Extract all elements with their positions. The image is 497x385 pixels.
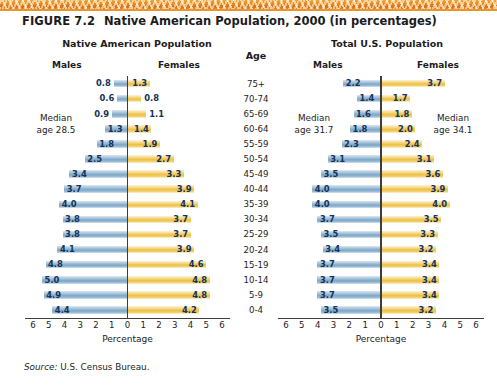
female-bar: 3.2 — [381, 245, 436, 255]
x-axis-tick: 3 — [421, 319, 437, 333]
female-bar: 1.4 — [128, 124, 152, 134]
female-value-label: 3.4 — [422, 291, 437, 299]
female-bar: 3.4 — [381, 275, 439, 285]
female-bar: 1.9 — [128, 139, 160, 149]
male-half: 0.8 — [25, 76, 128, 91]
female-half: 3.9 — [128, 182, 231, 197]
female-bar: 4.8 — [128, 275, 210, 285]
female-half: 2.7 — [128, 151, 231, 166]
male-value-label: 0.9 — [94, 110, 109, 118]
male-value-label: 1.3 — [108, 125, 123, 133]
female-value-label: 3.7 — [173, 215, 188, 223]
male-value-label: 0.8 — [96, 79, 111, 87]
male-half: 3.5 — [278, 227, 381, 242]
female-bar: 2.7 — [128, 154, 174, 164]
male-half: 3.7 — [25, 182, 128, 197]
male-value-label: 3.5 — [323, 230, 338, 238]
age-group-label: 0-4 — [232, 302, 280, 317]
male-half: 2.3 — [278, 136, 381, 151]
x-axis-ticks: 6543210123456 — [278, 319, 484, 333]
female-bar: 4.0 — [381, 200, 450, 210]
female-bar: 1.3 — [128, 79, 150, 89]
male-bar: 1.6 — [354, 109, 381, 119]
female-value-label: 3.9 — [177, 185, 192, 193]
male-half: 4.0 — [25, 197, 128, 212]
female-value-label: 3.4 — [422, 260, 437, 268]
male-half: 1.4 — [278, 91, 381, 106]
female-value-label: 1.3 — [132, 79, 147, 87]
male-half: 3.4 — [25, 167, 128, 182]
x-axis-tick: 2 — [405, 319, 421, 333]
female-bar: 2.4 — [381, 139, 422, 149]
age-group-label: 5-9 — [232, 287, 280, 302]
female-half: 3.9 — [128, 242, 231, 257]
female-value-label: 4.8 — [192, 276, 207, 284]
female-half: 4.8 — [128, 287, 231, 302]
female-value-label: 4.1 — [180, 200, 195, 208]
female-value-label: 3.7 — [427, 79, 442, 87]
x-axis-tick: 1 — [357, 319, 373, 333]
median-label: Median — [28, 113, 84, 125]
center-axis-line — [127, 76, 128, 318]
female-half: 3.7 — [128, 212, 231, 227]
median-value: age 28.5 — [28, 125, 84, 137]
female-value-label: 3.9 — [177, 245, 192, 253]
female-bar: 3.4 — [381, 290, 439, 300]
x-axis-tick: 4 — [310, 319, 326, 333]
male-half: 4.0 — [278, 197, 381, 212]
male-bar: 4.0 — [59, 200, 127, 210]
left-panel-header: Native American Population — [42, 38, 232, 49]
left-females-header: Females — [158, 60, 200, 70]
female-value-label: 1.8 — [395, 110, 410, 118]
x-axis-tick: 0 — [120, 319, 136, 333]
female-bar: 2.0 — [381, 124, 415, 134]
male-value-label: 5.0 — [45, 276, 60, 284]
male-half: 4.9 — [25, 287, 128, 302]
x-axis-tick: 1 — [135, 319, 151, 333]
female-value-label: 3.4 — [422, 276, 437, 284]
male-bar: 1.3 — [105, 124, 127, 134]
female-bar: 3.7 — [381, 79, 445, 89]
male-half: 3.7 — [278, 272, 381, 287]
male-value-label: 1.6 — [356, 110, 371, 118]
male-value-label: 3.8 — [65, 230, 80, 238]
x-axis-tick: 5 — [294, 319, 310, 333]
female-half: 3.4 — [381, 287, 484, 302]
male-half: 4.8 — [25, 257, 128, 272]
male-half: 3.7 — [278, 287, 381, 302]
female-value-label: 4.6 — [189, 260, 204, 268]
x-axis-ticks: 6543210123456 — [25, 319, 230, 333]
x-axis-tick: 6 — [214, 319, 230, 333]
female-half: 3.1 — [381, 151, 484, 166]
x-axis-tick: 6 — [25, 319, 41, 333]
male-value-label: 3.4 — [325, 245, 340, 253]
female-half: 1.9 — [128, 136, 231, 151]
center-axis-line — [380, 76, 381, 318]
male-value-label: 2.3 — [344, 140, 359, 148]
male-bar: 3.5 — [321, 230, 381, 240]
female-bar: 4.2 — [128, 305, 200, 315]
x-axis-tick: 6 — [278, 319, 294, 333]
female-half: 4.6 — [128, 257, 231, 272]
female-half: 4.8 — [128, 272, 231, 287]
male-half: 3.8 — [25, 227, 128, 242]
figure-title: FIGURE 7.2Native American Population, 20… — [22, 14, 437, 28]
median-label: Median — [425, 113, 481, 125]
female-bar: 3.3 — [128, 169, 184, 179]
female-half: 4.2 — [128, 302, 231, 317]
right-females-header: Females — [417, 60, 459, 70]
female-bar: 4.6 — [128, 260, 207, 270]
male-half: 3.8 — [25, 212, 128, 227]
female-half: 3.3 — [128, 167, 231, 182]
male-bar: 3.7 — [317, 215, 381, 225]
age-group-label: 10-14 — [232, 272, 280, 287]
age-group-label: 30-34 — [232, 212, 280, 227]
female-half: 1.7 — [381, 91, 484, 106]
age-group-label: 65-69 — [232, 106, 280, 121]
female-value-label: 3.6 — [425, 170, 440, 178]
median-value: age 34.1 — [425, 125, 481, 137]
x-axis-tick: 1 — [389, 319, 405, 333]
x-axis-tick: 2 — [341, 319, 357, 333]
male-half: 3.5 — [278, 302, 381, 317]
x-axis-tick: 4 — [436, 319, 452, 333]
